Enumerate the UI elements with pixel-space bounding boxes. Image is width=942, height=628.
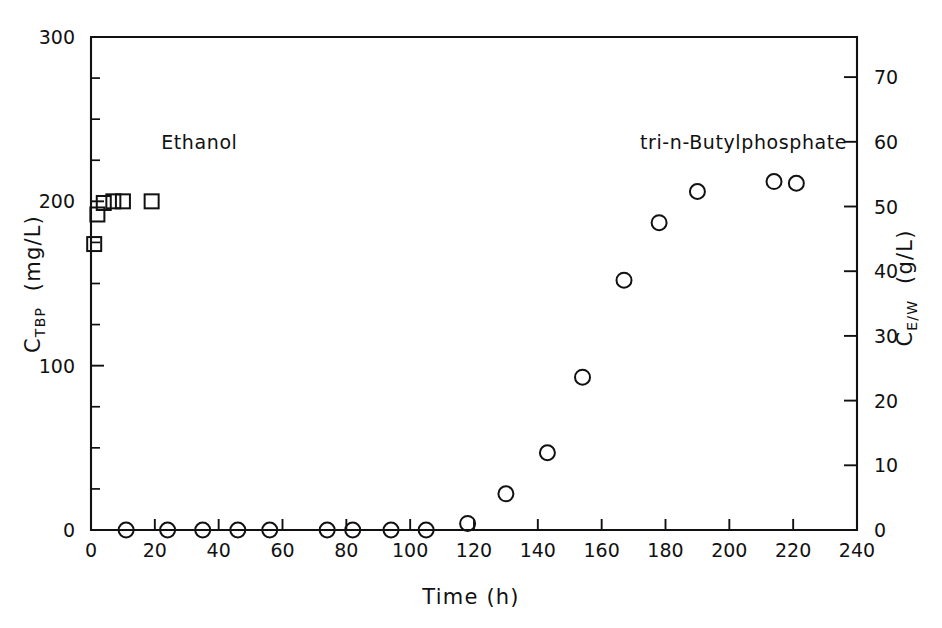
data-point-circle [540, 445, 555, 460]
y-axis-right-title-main: C [893, 331, 917, 347]
data-point-circle [617, 273, 632, 288]
x-tick-label: 60 [270, 539, 294, 561]
plot-frame-rect [91, 37, 857, 530]
y-axis-right-ticks: 010203040506070 [844, 66, 898, 541]
data-point-circle [575, 370, 590, 385]
x-tick-label: 80 [334, 539, 358, 561]
y-axis-left-title-units: (mg/L) [21, 215, 45, 291]
x-tick-label: 220 [775, 539, 811, 561]
chart-figure: 020406080100120140160180200220240 010020… [0, 0, 942, 628]
series-annotation-square: Ethanol [161, 131, 237, 153]
y2-tick-label: 10 [874, 454, 898, 476]
x-tick-label: 0 [85, 539, 97, 561]
x-tick-label: 240 [839, 539, 875, 561]
x-tick-label: 160 [584, 539, 620, 561]
x-tick-label: 200 [711, 539, 747, 561]
x-tick-label: 100 [392, 539, 428, 561]
series-circle-markers [119, 174, 804, 537]
data-point-circle [789, 176, 804, 191]
y2-tick-label: 20 [874, 390, 898, 412]
x-tick-label: 20 [143, 539, 167, 561]
y2-tick-label: 0 [874, 519, 886, 541]
y2-tick-label: 50 [874, 196, 898, 218]
x-axis-ticks: 020406080100120140160180200220240 [85, 519, 875, 561]
y-tick-label: 300 [39, 26, 75, 48]
x-tick-label: 40 [207, 539, 231, 561]
data-point-square [87, 237, 101, 251]
series-annotation-circle: tri-n-Butylphosphate [640, 131, 847, 153]
x-axis-title: Time (h) [421, 585, 519, 609]
x-tick-label: 140 [520, 539, 556, 561]
series-annotations: Ethanoltri-n-Butylphosphate [161, 131, 847, 153]
data-point-circle [690, 184, 705, 199]
plot-frame [91, 37, 857, 530]
y-axis-left-title-sub: TBP [32, 307, 48, 338]
scatter-plot-canvas: 020406080100120140160180200220240 010020… [0, 0, 942, 628]
y-axis-left-ticks: 0100200300 [39, 26, 104, 541]
data-point-square [116, 194, 130, 208]
data-point-circle [460, 516, 475, 531]
y-axis-left-title: CTBP (mg/L) [21, 215, 48, 353]
y-axis-right-title-units: (g/L) [893, 229, 917, 284]
x-tick-label: 120 [456, 539, 492, 561]
data-point-circle [767, 174, 782, 189]
data-point-circle [498, 486, 513, 501]
y-tick-label: 0 [63, 519, 75, 541]
y-tick-label: 200 [39, 190, 75, 212]
data-point-circle [652, 215, 667, 230]
x-tick-label: 180 [647, 539, 683, 561]
svg-text:CTBP (mg/L): CTBP (mg/L) [21, 215, 48, 353]
y-tick-label: 100 [39, 355, 75, 377]
y-axis-right-title-sub: E/W [904, 300, 920, 331]
y2-tick-label: 70 [874, 66, 898, 88]
data-point-square [145, 194, 159, 208]
y-axis-left-title-main: C [21, 337, 45, 353]
y2-tick-label: 60 [874, 131, 898, 153]
data-series-markers [87, 174, 804, 537]
